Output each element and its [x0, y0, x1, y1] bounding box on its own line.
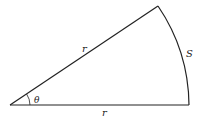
lower-radius-label: r	[102, 107, 108, 117]
arc-label: S	[186, 48, 193, 59]
upper-radius-label: r	[82, 43, 88, 54]
upper-radius-line	[10, 6, 158, 105]
sector-diagram: r r θ S	[0, 0, 200, 117]
theta-label: θ	[34, 95, 40, 105]
arc-s	[158, 6, 189, 105]
angle-arc	[27, 94, 30, 105]
